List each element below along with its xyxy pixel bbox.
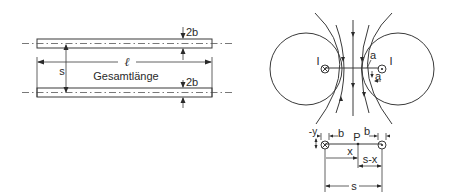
spacing-label: s [59,65,65,77]
parallel-conductors-diagram: ℓ Gesamtlänge s 2b 2b [22,26,232,108]
field-lines-diagram: I I a a [270,13,434,124]
point-p-label: P [353,131,360,143]
spacing-dimension: s [59,44,68,93]
left-field-circle [270,33,342,105]
total-length-label: Gesamtlänge [93,70,158,82]
b-right-label: b [364,125,370,137]
right-field-circle [362,33,434,105]
neg-y-label: -y [309,126,317,137]
current-into-page-icon [321,65,329,73]
thickness-label-bottom: 2b [186,76,198,88]
length-label: ℓ [125,55,130,69]
direction-label: a [375,70,382,82]
radius-label: a [370,49,377,61]
figure-canvas: ℓ Gesamtlänge s 2b 2b [0,0,454,196]
bottom-conductor [22,88,232,97]
point-p-marker [357,143,360,146]
thickness-label-top: 2b [186,26,198,38]
top-conductor [22,39,232,48]
detail-current-into-page-icon [321,141,329,149]
s-label: s [351,180,357,192]
detail-current-out-of-page-icon [378,141,386,149]
current-label-left: I [316,55,319,67]
b-left-label: b [338,127,344,139]
s-minus-x-label: s-x [363,153,378,165]
current-label-right: I [389,55,392,67]
x-label: x [347,145,353,157]
coordinate-detail-diagram: -y b b P [309,125,390,192]
